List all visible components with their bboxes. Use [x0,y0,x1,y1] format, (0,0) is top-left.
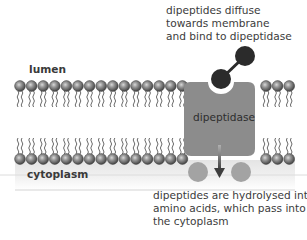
phospholipid-head [272,154,283,165]
phospholipid-head [165,154,176,165]
bottom-annotation-line: amino acids, which pass into [153,202,307,215]
phospholipid-head [119,81,130,92]
diagram-stage: lumen cytoplasm dipeptidase dipeptides d… [0,0,307,240]
bottom-annotation: dipeptides are hydrolysed into amino aci… [153,189,307,228]
phospholipid-head [26,81,37,92]
top-annotation-line: towards membrane [166,17,292,30]
bottom-annotation-line: dipeptides are hydrolysed into [153,189,307,202]
dipeptidase-label: dipeptidase [193,111,255,123]
phospholipid-head [142,81,153,92]
phospholipid-head [84,81,95,92]
phospholipid-head [131,154,142,165]
phospholipid-head [61,81,72,92]
phospholipid-head [49,154,60,165]
phospholipid-head [165,81,176,92]
phospholipid-head [131,81,142,92]
phospholipid-head [26,154,37,165]
phospholipid-head [38,154,49,165]
phospholipid-head [177,154,188,165]
phospholipid-head [261,154,272,165]
phospholipid-head [142,154,153,165]
phospholipid-head [38,81,49,92]
phospholipid-head [119,154,130,165]
phospholipid-head [107,154,118,165]
phospholipid-head [154,81,165,92]
bottom-annotation-line: the cytoplasm [153,215,307,228]
phospholipid-head [284,154,295,165]
phospholipid-head [107,81,118,92]
amino-acid-left [188,162,208,182]
phospholipid-head [84,154,95,165]
phospholipid-head [49,81,60,92]
amino-acid-right [231,162,251,182]
cytoplasm-label: cytoplasm [27,168,88,180]
phospholipid-head [272,81,283,92]
phospholipid-head [261,81,272,92]
phospholipid-head [96,154,107,165]
phospholipid-head [73,154,84,165]
phospholipid-head [154,154,165,165]
phospholipid-head [15,81,26,92]
phospholipid-head [61,154,72,165]
phospholipid-head [15,154,26,165]
phospholipid-head [284,81,295,92]
phospholipid-head [73,81,84,92]
lumen-label: lumen [29,63,66,75]
top-annotation-line: dipeptides diffuse [166,4,292,17]
top-annotation: dipeptides diffuse towards membrane and … [166,4,292,43]
top-annotation-line: and bind to dipeptidase [166,30,292,43]
phospholipid-head [96,81,107,92]
